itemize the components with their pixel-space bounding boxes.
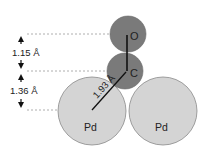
o-atom xyxy=(110,16,146,52)
c-atom-label: C xyxy=(130,67,138,79)
co-on-pd-diagram: O C Pd Pd 1.93 Å 1.15 Å 1.36 Å xyxy=(0,0,206,156)
o-atom-label: O xyxy=(130,30,139,42)
pd-atom-right-label: Pd xyxy=(155,121,168,133)
pd-atom-right xyxy=(129,77,197,145)
arrow-down-icon xyxy=(18,102,24,108)
arrow-up-icon xyxy=(18,36,24,42)
pd-atom-left xyxy=(58,77,126,145)
c-height-label: 1.36 Å xyxy=(10,85,38,96)
arrow-up-icon xyxy=(18,74,24,80)
co-distance-label: 1.15 Å xyxy=(12,47,40,58)
arrow-down-icon xyxy=(18,63,24,69)
pd-atom-left-label: Pd xyxy=(84,121,97,133)
